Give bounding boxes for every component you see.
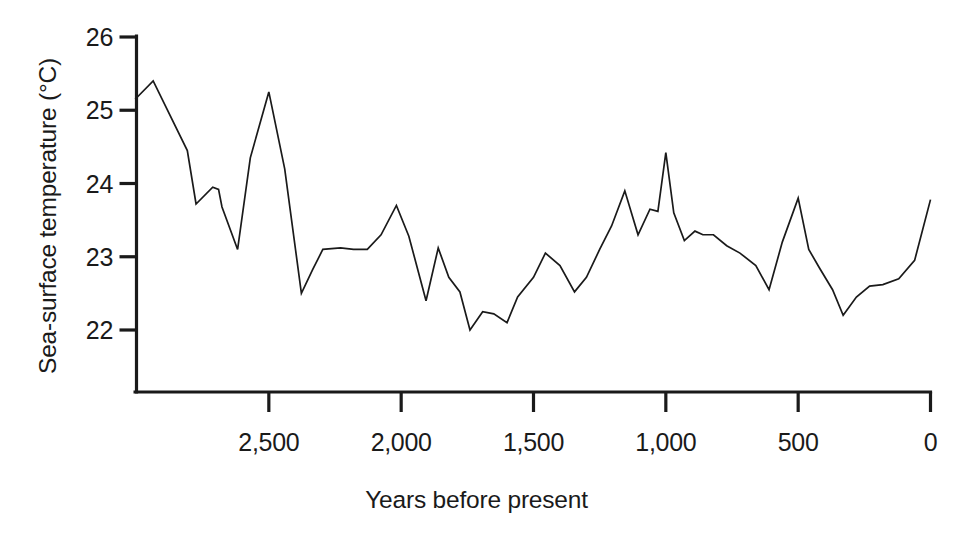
y-tick-label: 23 (53, 242, 113, 271)
y-tick-label: 22 (53, 316, 113, 345)
x-axis-title: Years before present (0, 486, 953, 514)
y-tick-label: 25 (53, 96, 113, 125)
y-axis-title: Sea-surface temperature (°C) (34, 58, 62, 374)
y-tick-label: 26 (53, 23, 113, 52)
chart-figure: 2625242322 2,5002,0001,5001,0005000 Sea-… (0, 0, 953, 536)
x-tick-label: 1,500 (503, 428, 564, 457)
x-tick-label: 2,000 (371, 428, 432, 457)
data-series-line (135, 81, 930, 330)
x-tick-label: 500 (778, 428, 819, 457)
y-axis-ticks (120, 37, 137, 330)
x-tick-label: 1,000 (635, 428, 696, 457)
x-tick-label: 0 (924, 428, 938, 457)
y-tick-label: 24 (53, 169, 113, 198)
x-tick-label: 2,500 (238, 428, 299, 457)
x-axis-ticks (269, 392, 931, 412)
